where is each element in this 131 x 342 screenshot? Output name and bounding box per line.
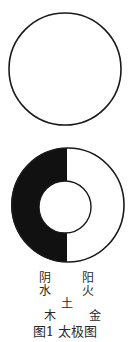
figure-caption: 图1 太极图: [33, 325, 97, 338]
taiji-diagram-canvas: [0, 0, 131, 342]
label-earth: 土: [61, 298, 73, 310]
label-yin: 阴: [39, 272, 51, 284]
label-wood: 木: [44, 310, 56, 322]
label-yang: 阳: [82, 272, 94, 284]
label-metal: 金: [89, 310, 101, 322]
taiji-ring: [11, 148, 124, 262]
label-water: 水: [39, 285, 51, 297]
wuji-circle: [9, 13, 121, 125]
label-fire: 火: [82, 285, 94, 297]
inner-circle: [39, 181, 91, 233]
